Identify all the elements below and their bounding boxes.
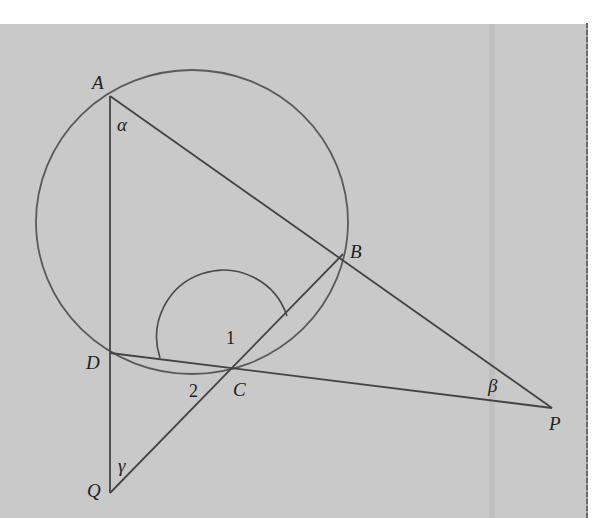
label-point-d: D (85, 352, 100, 373)
circumcircle (36, 70, 348, 374)
label-angle-1: 1 (226, 328, 235, 348)
label-point-a: A (90, 72, 104, 93)
label-point-b: B (350, 241, 362, 262)
label-point-q: Q (87, 480, 101, 501)
label-angle-2: 2 (189, 381, 198, 401)
label-angle-alpha: α (117, 114, 128, 135)
angle-1-arc (157, 270, 287, 358)
diagram-canvas: A B C D P Q α β γ 1 2 (0, 0, 609, 518)
geometry-figure: A B C D P Q α β γ 1 2 (0, 0, 609, 518)
segment-qb (110, 254, 343, 493)
label-angle-gamma: γ (118, 455, 126, 476)
label-point-p: P (548, 413, 561, 434)
label-angle-beta: β (487, 375, 498, 396)
label-point-c: C (233, 379, 246, 400)
